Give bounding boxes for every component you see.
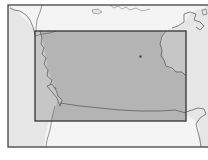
east-island xyxy=(202,9,207,15)
locator-map xyxy=(0,0,208,160)
point-marker xyxy=(140,56,142,58)
